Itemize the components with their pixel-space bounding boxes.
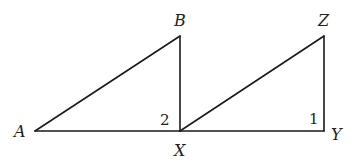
- angle-label-2: 2: [160, 111, 170, 129]
- label-y: Y: [331, 125, 343, 144]
- segment-xz: [180, 36, 324, 131]
- label-x: X: [172, 141, 186, 160]
- label-b: B: [173, 11, 186, 30]
- geometry-diagram: A B X Z Y 2 1: [0, 0, 354, 163]
- angle-label-1: 1: [309, 110, 319, 128]
- label-z: Z: [317, 11, 330, 30]
- segment-ab: [35, 36, 180, 131]
- label-a: A: [12, 122, 26, 141]
